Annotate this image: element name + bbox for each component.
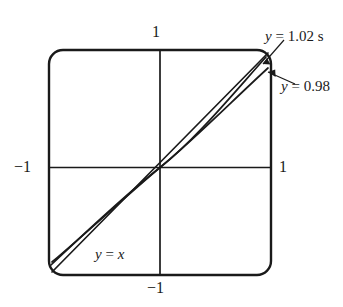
y-axis-tick-label-bottom: −1: [147, 280, 164, 296]
x-axis-tick-label-right: 1: [279, 159, 287, 175]
figure-container: 1 −1 1 −1 y = 1.02 s y = 0.98 y = x: [0, 0, 343, 307]
curve-annotation-0-98: y = 0.98: [281, 79, 330, 94]
plot-area: [0, 0, 343, 307]
y-axis-tick-label-top: 1: [152, 24, 160, 40]
curve-annotation-1-02-sin-x: y = 1.02 s: [265, 29, 323, 44]
curve-annotation-y-equals-x: y = x: [95, 247, 124, 262]
x-axis-tick-label-left: −1: [14, 159, 31, 175]
